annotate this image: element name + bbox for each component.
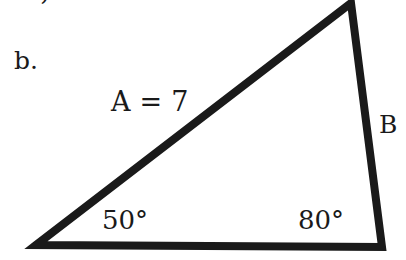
part-label: b. [14,48,38,73]
previous-part-fragment: ) [40,0,50,4]
side-a-name: A [111,86,132,117]
side-a-value: 7 [171,86,189,117]
triangle-diagram [0,0,406,260]
side-a-label: A=7 [111,88,189,115]
side-a-equals: = [140,86,164,117]
side-b-label: B [379,112,397,137]
angle-bottom-left-label: 50° [102,207,148,233]
angle-bottom-right-label: 80° [298,207,344,233]
triangle-problem-figure: ) b. A=7 B 50° 80° [0,0,406,260]
